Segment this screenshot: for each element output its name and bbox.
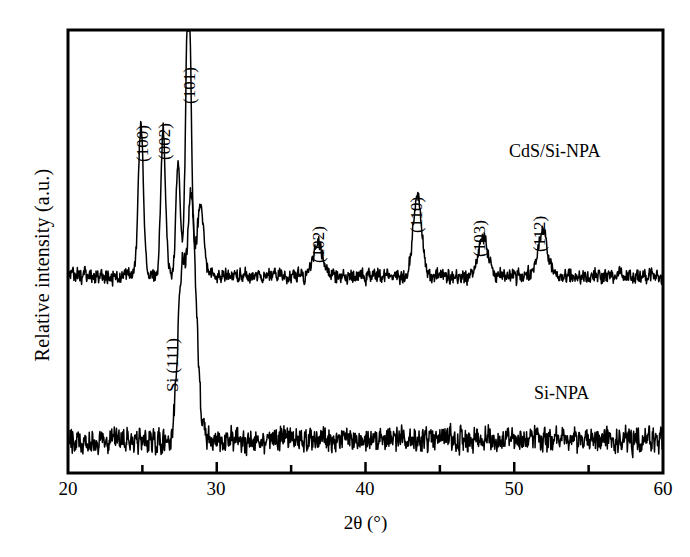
x-tick-label-20: 20 [46,478,90,500]
x-axis-label: 2θ (°) [68,512,663,534]
peak-label-101: (101) [180,67,200,104]
series-label-cds-si-npa: CdS/Si-NPA [509,141,600,162]
x-tick-label-30: 30 [194,478,238,500]
series-label-si-npa: Si-NPA [534,383,589,404]
peak-label-102: (102) [309,226,329,263]
peak-label-110: (110) [407,197,427,233]
xrd-chart-figure: Relative intensity (a.u.) 2θ (°) 20 30 4… [0,0,690,557]
x-tick-label-60: 60 [641,478,685,500]
series-line-si-npa [68,188,663,458]
plot-frame [68,30,663,473]
peak-label-002: (002) [155,123,175,160]
x-axis-ticks [142,462,588,473]
x-tick-label-50: 50 [492,478,536,500]
peak-label-100: (100) [133,125,153,162]
y-axis-label: Relative intensity (a.u.) [28,65,56,465]
xrd-plot-canvas [0,0,690,557]
peak-label-112: (112) [530,216,550,252]
x-tick-label-40: 40 [343,478,387,500]
peak-label-si-111: Si (111) [163,338,183,392]
peak-label-103: (103) [470,220,490,257]
